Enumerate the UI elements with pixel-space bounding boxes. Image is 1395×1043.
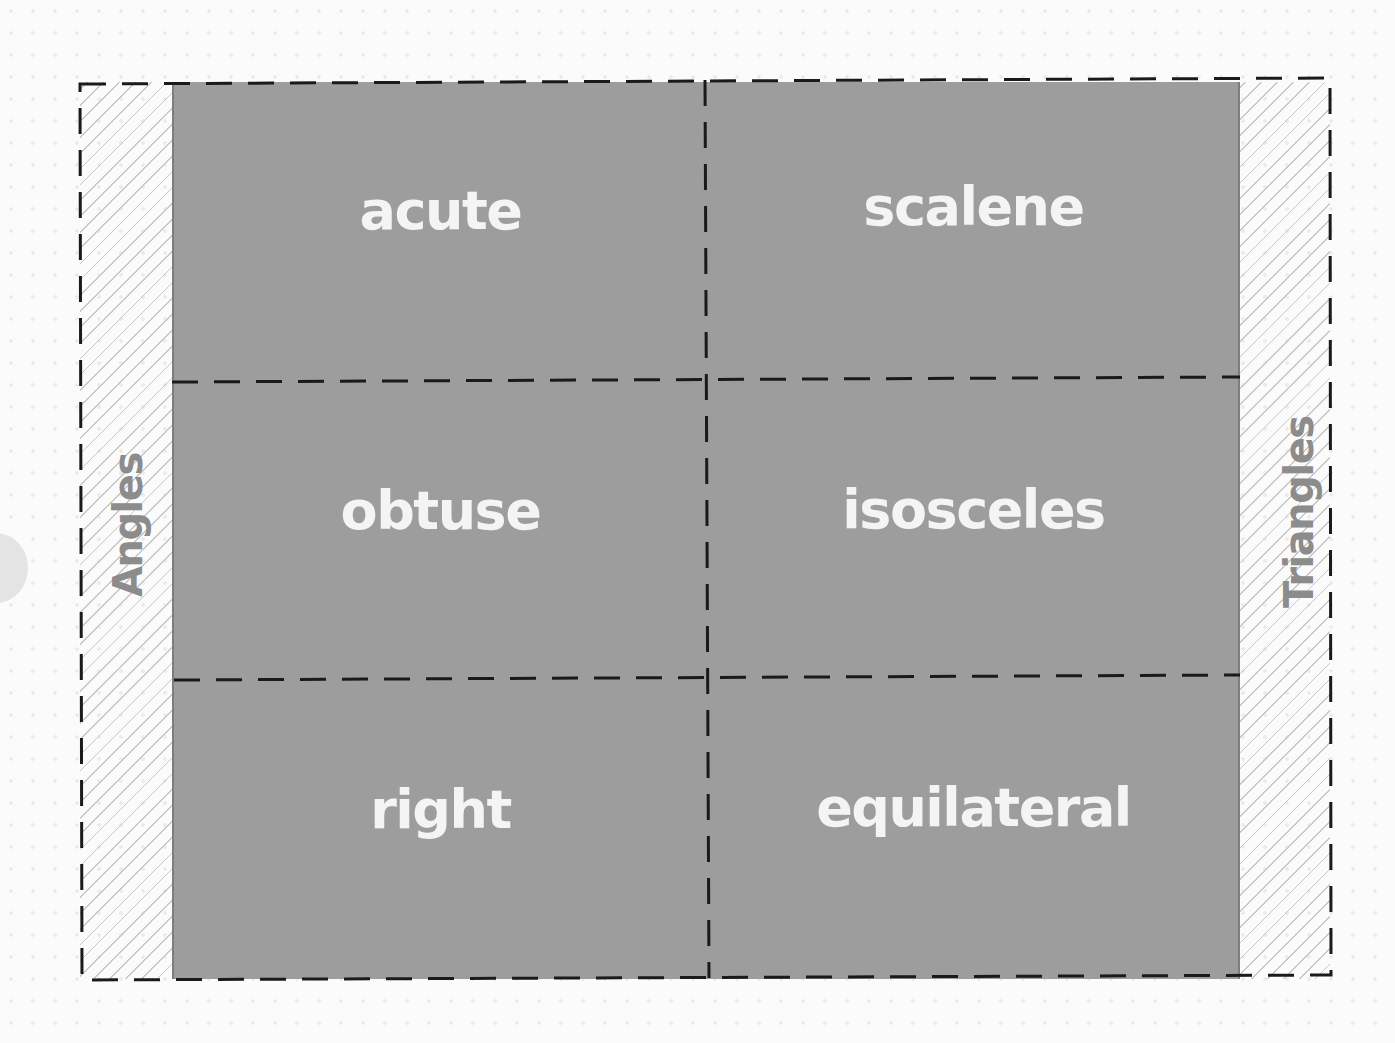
angles-side-label: Angles — [105, 467, 151, 597]
cell-label: acute — [360, 179, 522, 242]
cell-label: obtuse — [341, 479, 541, 542]
cell-label: equilateral — [816, 776, 1131, 839]
classification-diagram: acute scalene obtuse isosceles right equ… — [80, 82, 1330, 979]
triangles-side-label: Triangles — [1276, 438, 1322, 608]
cell-label: isosceles — [842, 478, 1104, 541]
cell-right: right — [174, 678, 707, 979]
edge-circle-decoration — [0, 533, 28, 603]
category-grid: acute scalene obtuse isosceles right equ… — [172, 82, 1240, 979]
cell-acute: acute — [174, 82, 707, 380]
cell-label: scalene — [863, 175, 1083, 238]
cell-scalene: scalene — [707, 82, 1240, 380]
cell-label: right — [370, 778, 511, 841]
cell-isosceles: isosceles — [707, 380, 1240, 678]
cell-obtuse: obtuse — [174, 380, 707, 678]
cell-equilateral: equilateral — [707, 678, 1240, 979]
